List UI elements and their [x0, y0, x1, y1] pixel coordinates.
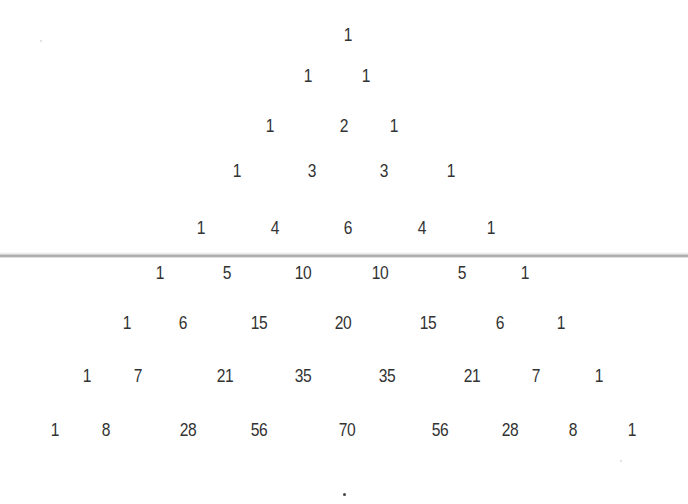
cell-r5-c0: 1 [155, 262, 165, 284]
cell-r8-c7: 8 [568, 419, 578, 441]
cell-r5-c5: 1 [520, 262, 530, 284]
cell-r5-c1: 5 [222, 262, 232, 284]
cell-r6-c3: 20 [333, 312, 353, 334]
cell-r6-c4: 15 [418, 312, 438, 334]
cell-r7-c4: 35 [377, 365, 397, 387]
cell-r2-c1: 2 [339, 115, 349, 137]
cell-r3-c3: 1 [446, 160, 456, 182]
cell-r8-c3: 56 [249, 419, 269, 441]
cell-r1-c0: 1 [303, 65, 313, 87]
cell-r8-c0: 1 [50, 419, 60, 441]
speck [620, 460, 622, 462]
cell-r5-c4: 5 [457, 262, 467, 284]
cell-r1-c1: 1 [361, 65, 371, 87]
cell-r6-c5: 6 [495, 312, 505, 334]
cell-r5-c2: 10 [293, 262, 313, 284]
cell-r7-c0: 1 [82, 365, 92, 387]
cell-r7-c2: 21 [215, 365, 235, 387]
cell-r6-c0: 1 [122, 312, 132, 334]
cell-r3-c1: 3 [307, 160, 317, 182]
cell-r8-c6: 28 [500, 419, 520, 441]
speck [40, 40, 42, 42]
scan-line [0, 252, 688, 258]
cell-r3-c2: 3 [379, 160, 389, 182]
cell-r2-c0: 1 [265, 115, 275, 137]
cell-r4-c3: 4 [417, 217, 427, 239]
cell-r8-c8: 1 [627, 419, 637, 441]
cell-r7-c1: 7 [133, 365, 143, 387]
cell-r4-c1: 4 [270, 217, 280, 239]
cell-r8-c1: 8 [101, 419, 111, 441]
cell-r0-c0: 1 [343, 24, 353, 46]
cell-r3-c0: 1 [232, 160, 242, 182]
cell-r4-c4: 1 [486, 217, 496, 239]
cell-r8-c2: 28 [178, 419, 198, 441]
continuation-dot [343, 493, 346, 496]
cell-r6-c2: 15 [249, 312, 269, 334]
cell-r4-c2: 6 [343, 217, 353, 239]
cell-r2-c2: 1 [389, 115, 399, 137]
cell-r6-c6: 1 [556, 312, 566, 334]
cell-r8-c4: 70 [337, 419, 357, 441]
cell-r7-c5: 21 [462, 365, 482, 387]
cell-r7-c6: 7 [531, 365, 541, 387]
cell-r5-c3: 10 [370, 262, 390, 284]
cell-r8-c5: 56 [430, 419, 450, 441]
cell-r6-c1: 6 [178, 312, 188, 334]
cell-r7-c7: 1 [594, 365, 604, 387]
cell-r4-c0: 1 [196, 217, 206, 239]
cell-r7-c3: 35 [293, 365, 313, 387]
